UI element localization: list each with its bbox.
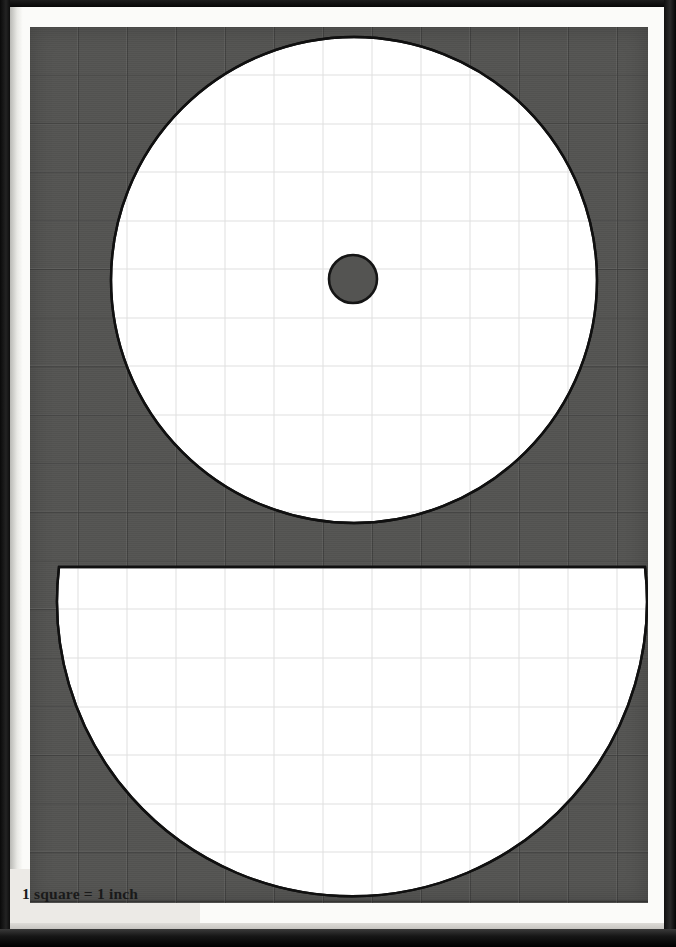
scanned-page: 1 square = 1 inch xyxy=(0,0,676,947)
paper-sheet: 1 square = 1 inch xyxy=(10,7,664,929)
page-frame-bottom-edge xyxy=(0,929,676,947)
template-shapes xyxy=(30,27,648,903)
scale-caption: 1 square = 1 inch xyxy=(22,885,138,903)
page-frame-top-edge xyxy=(0,0,676,7)
lower-segment-shape xyxy=(57,567,647,896)
page-frame-right-edge xyxy=(664,0,676,947)
paper-left-shading xyxy=(10,7,23,929)
page-frame-left-edge xyxy=(0,0,10,947)
center-hole-shape xyxy=(329,255,377,303)
paper-bottom-edge-shading xyxy=(10,923,664,929)
